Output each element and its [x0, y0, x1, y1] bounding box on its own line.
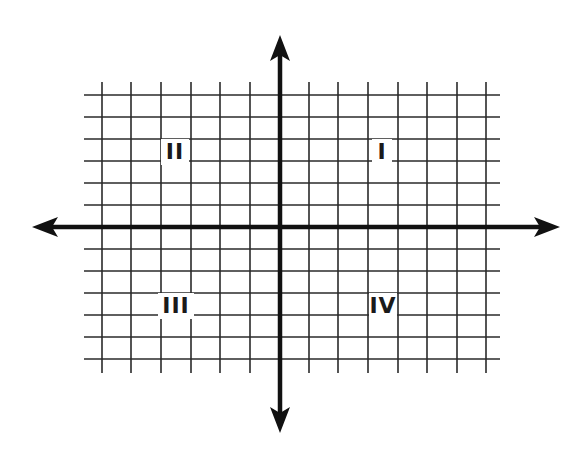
coordinate-plane: I II III IV: [0, 0, 586, 465]
quadrant-label-i: I: [377, 139, 386, 164]
quadrant-label-iii: III: [162, 293, 190, 318]
quadrant-label-iv: IV: [369, 293, 396, 318]
quadrant-label-ii: II: [166, 139, 184, 164]
